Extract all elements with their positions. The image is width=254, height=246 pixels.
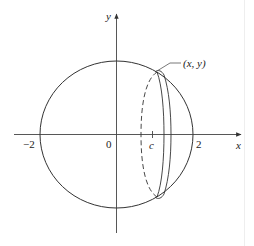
y-axis-label: y (105, 10, 111, 22)
tick-label-c: c (149, 139, 154, 151)
tick-label-neg-two: −2 (23, 138, 35, 150)
point-label: (x, y) (183, 57, 206, 70)
x-axis-label: x (235, 139, 241, 151)
point-leader-line (157, 63, 181, 71)
tick-label-zero: 0 (106, 138, 112, 150)
diagram-canvas: y x −2 0 c 2 (x, y) (0, 0, 254, 246)
tick-label-two: 2 (196, 138, 202, 150)
